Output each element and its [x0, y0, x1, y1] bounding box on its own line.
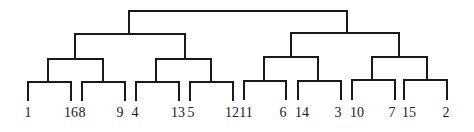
leaf-label: 1 [25, 105, 32, 120]
root-link [129, 11, 347, 34]
leaf-label: 2 [443, 105, 450, 120]
leaf-label: 6 [280, 105, 287, 120]
leaf-label: 5 [188, 105, 195, 120]
cluster-right [244, 33, 447, 99]
leaf-label: 9 [117, 105, 124, 120]
leaf-label: 4 [132, 105, 139, 120]
leaf-label: 14 [295, 105, 309, 120]
leaf-label: 12 [225, 105, 239, 120]
leaf-label: 13 [171, 105, 185, 120]
leaf-label: 16 [64, 105, 78, 120]
leaf-label: 7 [389, 105, 396, 120]
cluster-left [28, 34, 233, 100]
leaf-label: 3 [335, 105, 342, 120]
leaf-label: 8 [79, 105, 86, 120]
dendrogram: 1 16 8 9 4 13 5 12 11 6 14 3 10 7 15 2 [0, 0, 474, 132]
leaf-label: 15 [402, 105, 416, 120]
leaf-labels: 1 16 8 9 4 13 5 12 11 6 14 3 10 7 15 2 [25, 105, 450, 120]
leaf-label: 10 [350, 105, 364, 120]
leaf-label: 11 [239, 105, 252, 120]
